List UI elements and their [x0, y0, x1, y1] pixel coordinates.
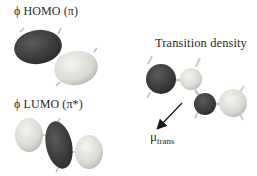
- homo-lobe-dark: [12, 27, 64, 67]
- td-lobe-dark-large: [146, 64, 176, 94]
- transition-density-molecule: [146, 56, 247, 120]
- orbital-figure: [0, 0, 257, 176]
- lumo-lobe-light-right: [75, 135, 103, 169]
- td-lobe-light-small: [180, 68, 202, 90]
- lumo-lobe-light-left: [15, 118, 43, 152]
- td-lobe-dark-small: [194, 93, 216, 115]
- lumo-orbital: [15, 118, 103, 172]
- td-lobe-light-large: [219, 89, 247, 117]
- homo-orbital: [12, 27, 101, 89]
- lumo-lobe-dark: [41, 119, 76, 171]
- transition-dipole-arrow: [160, 103, 182, 126]
